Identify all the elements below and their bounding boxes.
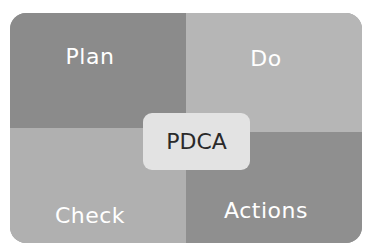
quadrant-label-do: Do — [250, 46, 281, 71]
center-label-box: PDCA — [143, 113, 250, 170]
quadrant-label-plan: Plan — [66, 44, 115, 69]
center-label: PDCA — [166, 129, 227, 154]
pdca-diagram: Plan Do Check Actions PDCA — [10, 13, 362, 243]
quadrant-label-actions: Actions — [224, 198, 308, 223]
quadrant-label-check: Check — [55, 203, 125, 228]
quadrant-plan: Plan — [10, 13, 186, 128]
